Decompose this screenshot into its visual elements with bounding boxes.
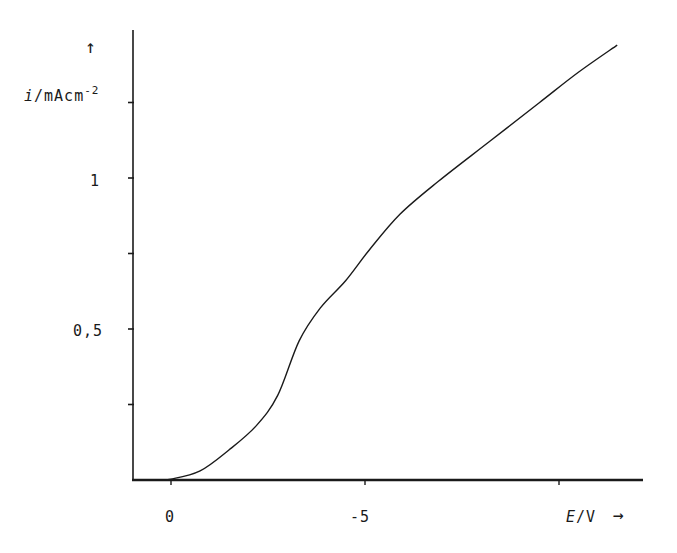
x-axis-arrow: → [613, 504, 625, 525]
y-tick-label-1: 1 [90, 172, 100, 190]
x-label-unit: /V [576, 508, 596, 526]
x-axis-label: E/V [566, 508, 596, 526]
y-tick-label-0-5: 0,5 [73, 322, 103, 340]
data-series-line [155, 45, 617, 480]
y-axis-label: i/mAcm-2 [24, 84, 99, 105]
y-axis-arrow: ↑ [85, 36, 97, 57]
x-tick-label-minus-5: -5 [350, 508, 370, 526]
x-label-symbol: E [566, 508, 576, 526]
y-label-unit: /mAcm [34, 87, 84, 105]
x-tick-label-0: 0 [165, 508, 175, 526]
y-label-symbol: i [24, 87, 34, 105]
y-label-exponent: -2 [84, 84, 99, 97]
chart-canvas [0, 0, 677, 553]
